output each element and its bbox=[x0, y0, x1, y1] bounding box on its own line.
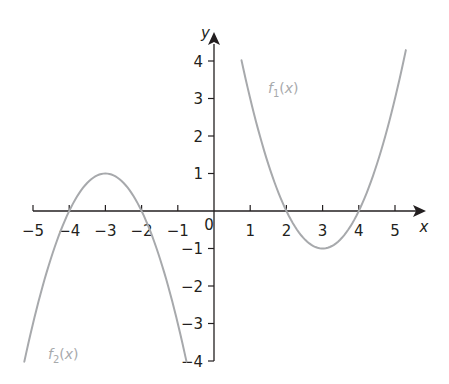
y-tick-label: 2 bbox=[193, 128, 203, 146]
x-tick-label: 2 bbox=[282, 222, 292, 240]
x-tick-label: −5 bbox=[22, 222, 44, 240]
curves bbox=[24, 50, 406, 362]
x-tick-label: 4 bbox=[354, 222, 364, 240]
origin-label: 0 bbox=[204, 216, 214, 234]
y-tick-label: 1 bbox=[193, 165, 203, 183]
x-tick-label: −1 bbox=[167, 222, 189, 240]
y-tick-label: −3 bbox=[181, 315, 203, 333]
y-axis-label: y bbox=[200, 24, 211, 42]
curve-f1 bbox=[242, 50, 406, 248]
y-tick-label: 4 bbox=[193, 53, 203, 71]
x-tick-label: 1 bbox=[245, 222, 255, 240]
x-axis-label: x bbox=[419, 218, 429, 236]
x-tick-label: 3 bbox=[318, 222, 328, 240]
y-tick-label: −1 bbox=[181, 240, 203, 258]
x-tick-label: −3 bbox=[94, 222, 116, 240]
axes bbox=[33, 32, 426, 361]
curve-f2 bbox=[24, 174, 186, 362]
function-graph: −5−4−3−2−1123454321−1−2−3−40 xyf1(x)f2(x… bbox=[0, 0, 449, 384]
x-tick-label: 5 bbox=[390, 222, 400, 240]
labels: xyf1(x)f2(x) bbox=[48, 24, 429, 365]
y-tick-label: 3 bbox=[193, 90, 203, 108]
y-tick-label: −2 bbox=[181, 278, 203, 296]
curve-label-f1: f1(x) bbox=[268, 80, 299, 99]
curve-label-f2: f2(x) bbox=[48, 346, 79, 365]
